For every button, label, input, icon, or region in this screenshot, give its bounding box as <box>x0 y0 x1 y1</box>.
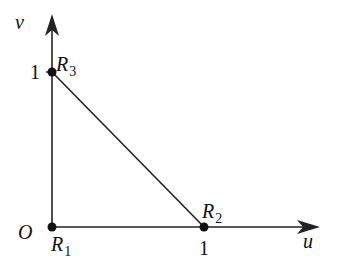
point-r3-label: R3 <box>56 54 76 74</box>
hypotenuse-edge <box>52 72 204 227</box>
point-r1-sub: 1 <box>64 244 71 259</box>
x-axis-label: u <box>303 231 313 251</box>
y-axis-label: v <box>15 12 24 32</box>
point-r2 <box>200 223 209 232</box>
point-r2-sub: 2 <box>215 211 222 226</box>
x-tick-label: 1 <box>199 238 209 258</box>
origin-label: O <box>18 222 32 242</box>
triangle-diagram: v 1 R3 O R1 R2 1 u <box>0 0 339 273</box>
point-r3-name: R <box>56 53 68 75</box>
y-tick-label: 1 <box>30 62 40 82</box>
point-r1 <box>48 223 57 232</box>
point-r2-name: R <box>202 200 214 222</box>
point-r1-label: R1 <box>51 234 71 254</box>
point-r3-sub: 3 <box>69 64 76 79</box>
point-r2-label: R2 <box>202 201 222 221</box>
point-r1-name: R <box>51 233 63 255</box>
